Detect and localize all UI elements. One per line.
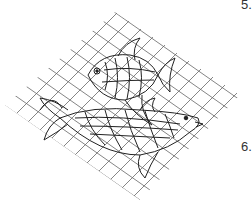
net-mesh xyxy=(0,0,252,212)
list-marker-6: 6. xyxy=(241,140,252,153)
fish-in-net-illustration xyxy=(0,0,252,212)
scaled-fish xyxy=(40,98,203,178)
list-marker-5: 5. xyxy=(241,0,252,11)
